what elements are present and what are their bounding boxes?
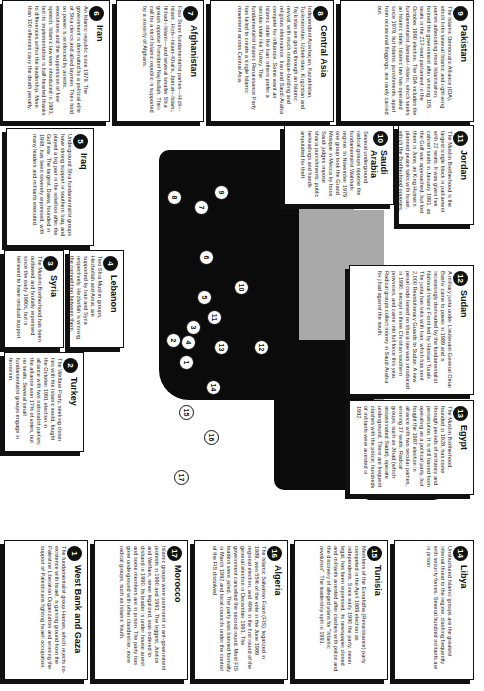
panel-body: Four Sunni fundamentalist parties—Hizb-i…: [141, 6, 183, 116]
panel-body: Independent Azerbaijan, Kazakhstan, Turk…: [236, 6, 313, 116]
panel-title: Pakistan: [459, 25, 469, 62]
panel-body: Two Shia Muslim groups, Hezbollah and Am…: [69, 256, 103, 342]
panel-body: The Islamic Salvation Front (FIS), legal…: [211, 546, 267, 674]
panel-algeria: 16Algeria The Islamic Salvation Front (F…: [194, 540, 288, 680]
panel-title: Sudan: [459, 290, 469, 318]
map-marker-10[interactable]: 10: [234, 280, 249, 295]
panel-pakistan: 9Pakistan The Islamic Democratic Allianc…: [340, 0, 474, 122]
panel-body: Underground Shia fundamentalist groups h…: [31, 134, 73, 240]
map-marker-13[interactable]: 13: [214, 340, 229, 355]
number-badge: 5: [73, 134, 88, 149]
panel-title: Iraq: [79, 153, 89, 170]
panel-morocco: 17Morocco Islamic groups were prominent …: [94, 540, 188, 680]
panel-body: Islamic groups were prominent in anti-go…: [118, 546, 167, 674]
panel-central-asia: 8Central Asia Independent Azerbaijan, Ka…: [210, 0, 334, 122]
panel-body: The Muslim Brotherhood is the largest si…: [398, 131, 453, 219]
panel-egypt: 13Egypt The Muslim Brotherhood, founded …: [349, 400, 474, 495]
number-badge: 10: [373, 131, 388, 146]
map-marker-15[interactable]: 15: [179, 405, 194, 420]
map-marker-2[interactable]: 2: [166, 333, 181, 348]
panel-sudan: 12Sudan A military junta under Lieutenan…: [349, 265, 474, 395]
map-marker-9[interactable]: 9: [214, 185, 229, 200]
panel-body: The Muslim Brotherhood has been outlawed…: [15, 256, 43, 342]
panel-title: Central Asia: [319, 25, 329, 77]
panel-body: The Welfare Party, seeking closer ties w…: [7, 358, 63, 446]
map-marker-8[interactable]: 8: [167, 190, 182, 205]
map-marker-7[interactable]: 7: [194, 200, 209, 215]
number-badge: 8: [313, 6, 328, 21]
number-badge: 13: [453, 406, 468, 421]
panel-iran: 6Iran An Islamic republic since 1979. Th…: [2, 0, 110, 122]
map-marker-6[interactable]: 6: [199, 250, 214, 265]
panel-body: An Islamic republic since 1979. The gove…: [26, 6, 89, 116]
panel-afghanistan: 7Afghanistan Four Sunni fundamentalist p…: [116, 0, 204, 122]
panel-body: Members of the Ennahdha (Renaissance) pa…: [318, 546, 367, 674]
panel-title: Jordan: [459, 150, 469, 180]
panel-title: Syria: [49, 275, 59, 297]
map-marker-16[interactable]: 16: [204, 430, 219, 445]
rotated-map-page: 1 2 3 4 5 6 7 8 9 10 11 12 13 14 15 16 1…: [0, 0, 484, 691]
panel-title: Iran: [95, 25, 105, 42]
panel-title: Lebanon: [109, 275, 119, 313]
map-marker-11[interactable]: 11: [207, 310, 222, 325]
panel-turkey: 2Turkey The Welfare Party, seeking close…: [4, 352, 84, 452]
panel-tunisia: 15Tunisia Members of the Ennahdha (Renai…: [294, 540, 388, 680]
panel-saudi-arabia: 10Saudi Arabia Several underground radic…: [284, 125, 394, 205]
number-badge: 1: [67, 546, 82, 561]
panel-title: Egypt: [459, 425, 469, 450]
panel-body: The Islamic Democratic Alliance (IDA), w…: [376, 6, 453, 116]
map-marker-3[interactable]: 3: [186, 320, 201, 335]
panel-title: Algeria: [273, 565, 283, 596]
panel-title: Libya: [459, 565, 469, 589]
panel-title: Afghanistan: [189, 25, 199, 77]
number-badge: 9: [453, 6, 468, 21]
map-marker-14[interactable]: 14: [206, 380, 221, 395]
panel-body: The fundamentalist group Hamas, which re…: [39, 546, 67, 674]
number-badge: 2: [63, 358, 78, 373]
panel-lebanon: 4Lebanon Two Shia Muslim groups, Hezboll…: [69, 250, 124, 348]
number-badge: 14: [453, 546, 468, 561]
panel-body: Several underground radical groups oppos…: [299, 131, 369, 199]
number-badge: 4: [103, 256, 118, 271]
panel-title: West Bank and Gaza: [73, 565, 83, 653]
number-badge: 12: [453, 271, 468, 286]
number-badge: 16: [267, 546, 282, 561]
map-marker-4[interactable]: 4: [181, 335, 196, 350]
panel-body: The Muslim Brotherhood, founded in 1928,…: [355, 406, 453, 489]
panel-west-bank-gaza: 1West Bank and Gaza The fundamentalist g…: [4, 540, 88, 680]
panel-title: Turkey: [69, 377, 79, 406]
panel-title: Morocco: [173, 565, 183, 603]
number-badge: 6: [89, 6, 104, 21]
number-badge: 3: [43, 256, 58, 271]
panel-title: Saudi Arabia: [369, 150, 389, 199]
panel-title: Tunisia: [373, 565, 383, 596]
panel-iraq: 5Iraq Underground Shia fundamentalist gr…: [6, 128, 94, 246]
map-marker-1[interactable]: 1: [179, 355, 194, 370]
panel-jordan: 11Jordan The Muslim Brotherhood is the l…: [398, 125, 474, 225]
number-badge: 15: [367, 546, 382, 561]
panel-syria: 3Syria The Muslim Brotherhood has been o…: [4, 250, 64, 348]
map-marker-12[interactable]: 12: [254, 340, 269, 355]
panel-body: A military junta under Lieutenant-Genera…: [376, 271, 453, 389]
number-badge: 17: [167, 546, 182, 561]
number-badge: 7: [183, 6, 198, 21]
map-marker-5[interactable]: 5: [197, 290, 212, 305]
map-marker-17[interactable]: 17: [174, 470, 189, 485]
number-badge: 11: [453, 131, 468, 146]
panel-libya: 14Libya Unstructured Islamic groups are …: [394, 540, 474, 680]
panel-body: Unstructured Islamic groups are the grea…: [425, 546, 453, 674]
